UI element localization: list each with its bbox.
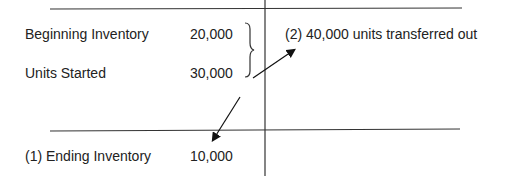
arrow-ending-inventory [213,97,240,140]
units-started-label: Units Started [25,65,106,81]
beginning-inventory-label: Beginning Inventory [25,26,149,42]
units-started-value: 30,000 [190,65,233,81]
ending-inventory-value: 10,000 [190,148,233,164]
top-rule [50,8,462,9]
arrow-transferred-out [253,50,294,78]
ending-inventory-label: (1) Ending Inventory [25,148,151,164]
beginning-inventory-value: 20,000 [190,26,233,42]
brace-icon [245,23,254,77]
transferred-out-label: (2) 40,000 units transferred out [285,26,477,42]
bottom-rule [50,129,460,131]
